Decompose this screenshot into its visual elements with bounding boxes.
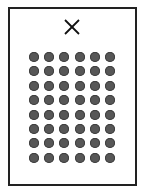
dot xyxy=(75,81,85,91)
dot xyxy=(90,110,100,120)
dot xyxy=(59,95,69,105)
dot xyxy=(75,52,85,62)
dot xyxy=(44,81,54,91)
dot xyxy=(59,110,69,120)
dot xyxy=(59,52,69,62)
dot xyxy=(59,124,69,134)
dot xyxy=(59,153,69,163)
close-icon[interactable] xyxy=(63,18,81,36)
dot xyxy=(105,81,115,91)
dot xyxy=(105,153,115,163)
dot xyxy=(75,138,85,148)
dot xyxy=(90,66,100,76)
dot xyxy=(44,124,54,134)
dot xyxy=(105,66,115,76)
dot xyxy=(105,110,115,120)
dot xyxy=(29,124,39,134)
dot xyxy=(90,138,100,148)
dot xyxy=(44,95,54,105)
dot xyxy=(44,110,54,120)
x-glyph xyxy=(63,18,81,36)
dot xyxy=(75,153,85,163)
dot xyxy=(105,124,115,134)
dot xyxy=(90,153,100,163)
dot xyxy=(29,81,39,91)
dot xyxy=(29,153,39,163)
dot xyxy=(44,153,54,163)
dot xyxy=(90,52,100,62)
dot xyxy=(29,110,39,120)
dot xyxy=(90,95,100,105)
dot xyxy=(44,138,54,148)
dot xyxy=(75,95,85,105)
dot-grid xyxy=(29,52,115,163)
dot xyxy=(44,52,54,62)
dot xyxy=(105,95,115,105)
dot xyxy=(75,110,85,120)
dot xyxy=(59,138,69,148)
dot xyxy=(59,66,69,76)
dot xyxy=(29,52,39,62)
dot xyxy=(29,138,39,148)
dot xyxy=(90,124,100,134)
dot xyxy=(75,124,85,134)
dot xyxy=(29,95,39,105)
dot xyxy=(105,52,115,62)
dot xyxy=(75,66,85,76)
dot xyxy=(59,81,69,91)
dot xyxy=(105,138,115,148)
dot xyxy=(90,81,100,91)
dot xyxy=(29,66,39,76)
dot xyxy=(44,66,54,76)
